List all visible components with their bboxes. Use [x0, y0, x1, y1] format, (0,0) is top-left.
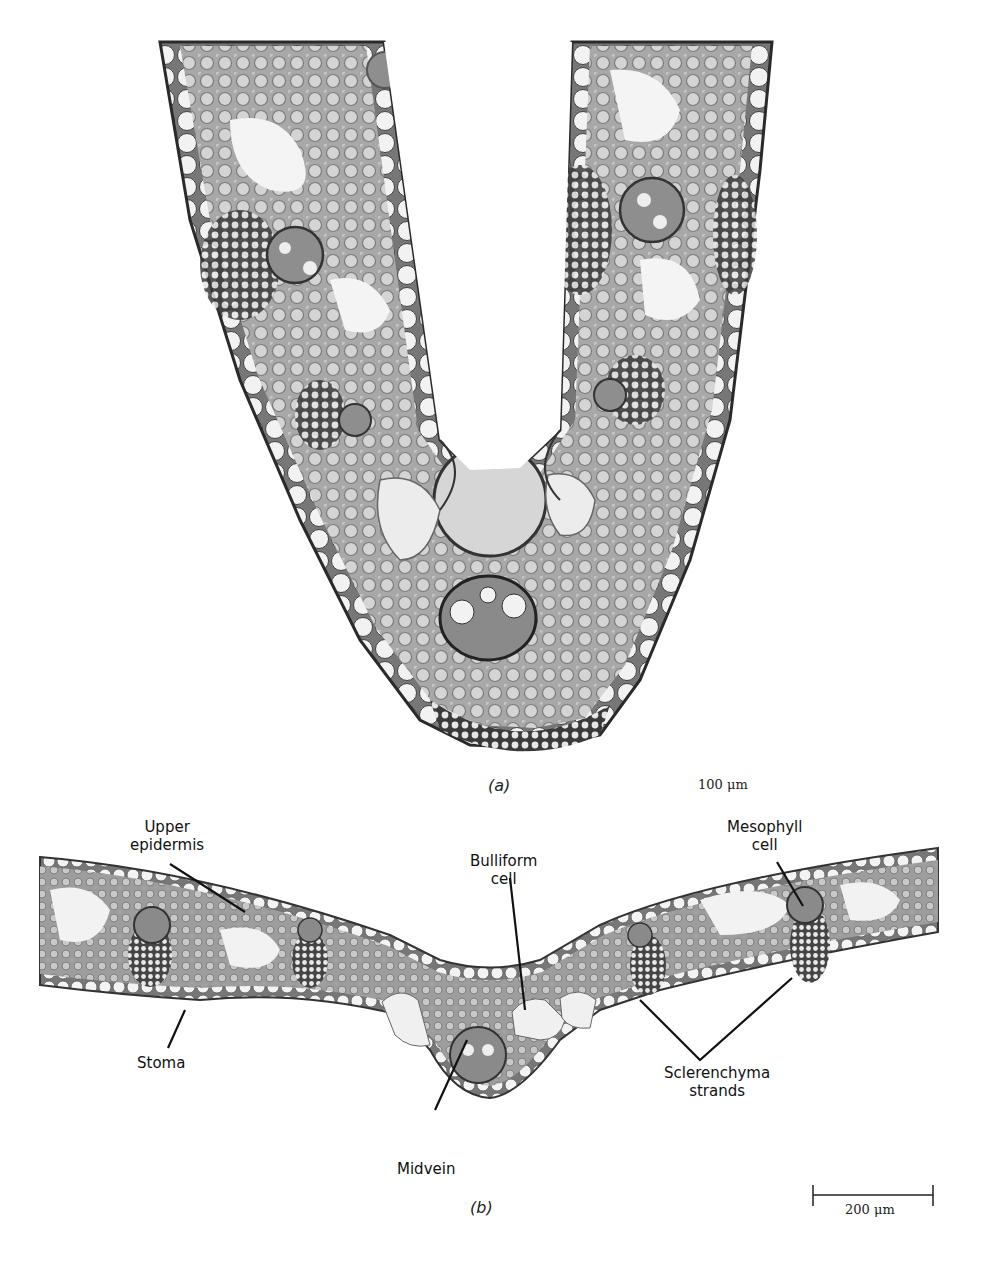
label-stoma: Stoma [137, 1054, 185, 1072]
label-mesophyll-cell: Mesophyll cell [727, 818, 802, 854]
scale-bar-a-label: 100 μm [698, 777, 748, 792]
scale-bar-b-label: 200 μm [845, 1202, 895, 1217]
label-sclerenchyma-strands: Sclerenchyma strands [664, 1064, 770, 1100]
label-bulliform-cell: Bulliform cell [470, 852, 537, 888]
panel-b-micrograph [0, 0, 983, 1264]
label-upper-epidermis: Upper epidermis [130, 818, 204, 854]
leaf-cross-section-figure: (a) 100 μm Upper epidermis Bulliform cel… [0, 0, 983, 1264]
panel-b-letter: (b) [470, 1198, 493, 1217]
panel-a-letter: (a) [488, 776, 510, 795]
label-midvein: Midvein [397, 1160, 455, 1178]
